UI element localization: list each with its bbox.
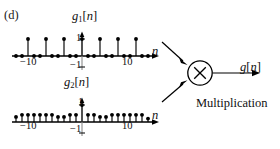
stem-marker — [74, 113, 78, 117]
g1-stem-series — [14, 37, 150, 58]
g1-ytick-negative: −1 — [70, 59, 81, 70]
stem-marker — [98, 37, 102, 41]
input-arrow-bottom-line — [162, 84, 183, 102]
panel-label: (d) — [4, 8, 19, 23]
stem-marker — [86, 54, 90, 58]
stem-marker — [92, 54, 96, 58]
stem-marker — [62, 115, 66, 119]
input-arrow-top-line — [162, 42, 183, 61]
stem-marker — [32, 113, 36, 117]
stem-marker — [110, 113, 114, 117]
g2-ytick-positive: 1 — [78, 96, 83, 107]
g2-stem-plot — [10, 92, 160, 138]
stem-marker — [134, 37, 138, 41]
stem-marker — [26, 37, 30, 41]
output-label-bracket-close: ] — [257, 60, 261, 74]
stem-marker — [14, 115, 18, 119]
g2-xtick-min: −10 — [20, 120, 36, 131]
stem-marker — [74, 54, 78, 58]
stem-marker — [44, 113, 48, 117]
stem-marker — [134, 113, 138, 117]
g1-xtick-max: 10 — [122, 56, 133, 67]
stem-marker — [104, 115, 108, 119]
stem-marker — [104, 54, 108, 58]
stem-marker — [26, 113, 30, 117]
stem-marker — [50, 113, 54, 117]
g1-xtick-min: −10 — [20, 56, 36, 67]
stem-marker — [20, 113, 24, 117]
stem-marker — [68, 113, 72, 117]
g1-signal-title: g1[n] — [72, 9, 97, 24]
g2-xtick-max: 10 — [122, 120, 133, 131]
stem-marker — [92, 113, 96, 117]
stem-marker — [68, 54, 72, 58]
stem-marker — [86, 113, 90, 117]
g2-signal-title: g2[n] — [64, 75, 89, 90]
stem-marker — [50, 54, 54, 58]
stem-marker — [116, 37, 120, 41]
g2-ytick-negative: −1 — [70, 123, 81, 134]
stem-marker — [98, 115, 102, 119]
stem-marker — [128, 113, 132, 117]
stem-marker — [62, 37, 66, 41]
output-signal-label: g[n] — [240, 60, 261, 75]
g1-ytick-positive: 1 — [76, 32, 81, 43]
g1-title-bracket-close: ] — [93, 9, 97, 23]
stem-marker — [122, 113, 126, 117]
g2-title-bracket-close: ] — [85, 75, 89, 89]
figure-panel-d: (d) g1[n] −10 10 n 1 −1 g2[n] −10 10 n — [0, 0, 280, 149]
input-arrow-top-head — [179, 58, 187, 65]
stem-marker — [116, 113, 120, 117]
multiplication-caption: Multiplication — [196, 96, 268, 111]
stem-marker — [14, 54, 18, 58]
stem-marker — [38, 113, 42, 117]
stem-marker — [38, 54, 42, 58]
stem-marker — [140, 54, 144, 58]
input-arrow-bottom-head — [179, 80, 187, 87]
stem-marker — [110, 54, 114, 58]
stem-marker — [44, 37, 48, 41]
stem-marker — [56, 115, 60, 119]
stem-marker — [140, 113, 144, 117]
stem-marker — [56, 54, 60, 58]
